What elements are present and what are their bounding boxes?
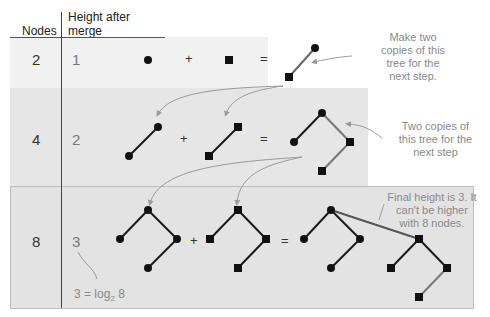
row3-result-edge (419, 268, 447, 297)
row3-left-edge (120, 210, 148, 239)
row1-circle-node (144, 56, 152, 64)
copy-arrow-icon (237, 157, 302, 203)
row3-result-edge (419, 239, 447, 268)
row3-result-square-node (415, 293, 423, 301)
row2-mid-square-node (234, 123, 242, 131)
row3-left-circle-node (173, 235, 181, 243)
row3-left-circle-node (116, 235, 124, 243)
row3-result-square-node (387, 264, 395, 272)
row1-result-square-node (285, 73, 293, 81)
copy-arrow-icon (150, 157, 302, 203)
row3-left-circle-node (144, 264, 152, 272)
row3-mid-square-node (206, 235, 214, 243)
row2-note-arrow-icon (348, 124, 382, 138)
row3-note-arrow-icon (379, 204, 384, 220)
row1-result-edge (289, 48, 315, 77)
row2-result-square-node (346, 138, 354, 146)
row3-mid-square-node (234, 206, 242, 214)
row2-result-edge (322, 113, 350, 142)
row3-left-edge (148, 239, 177, 268)
row2-left-circle-node (154, 123, 162, 131)
row3-left-circle-node (144, 206, 152, 214)
row3-mid-square-node (234, 264, 242, 272)
row2-result-circle-node (290, 138, 298, 146)
row3-mid-square-node (262, 235, 270, 243)
row3-left-edge (148, 210, 177, 239)
row3-result-edge (304, 210, 331, 239)
row3-result-edge (331, 239, 360, 268)
row1-note-arrow-icon (314, 56, 352, 62)
row3-mid-edge (210, 210, 238, 239)
copy-arrow-icon (226, 86, 283, 114)
row3-result-circle-node (327, 206, 335, 214)
row3-result-square-node (415, 235, 423, 243)
row2-left-edge (129, 127, 158, 156)
row2-result-square-node (318, 167, 326, 175)
row3-result-circle-node (356, 235, 364, 243)
row2-mid-edge (209, 127, 238, 156)
row3-result-edge (391, 239, 419, 268)
row3-mid-edge (238, 239, 266, 268)
row3-mid-edge (238, 210, 266, 239)
row2-mid-square-node (205, 152, 213, 160)
row3-result-circle-node (327, 264, 335, 272)
row1-square-node (225, 56, 233, 64)
tree-diagram (0, 0, 490, 317)
row2-left-circle-node (125, 152, 133, 160)
row2-result-circle-node (318, 109, 326, 117)
row3-result-square-node (443, 264, 451, 272)
copy-arrow-icon (158, 86, 283, 114)
row3-result-circle-node (300, 235, 308, 243)
row2-result-edge (294, 113, 322, 142)
row1-result-circle-node (311, 44, 319, 52)
row2-result-edge (322, 142, 350, 171)
log-note-arrow-icon (78, 252, 97, 279)
